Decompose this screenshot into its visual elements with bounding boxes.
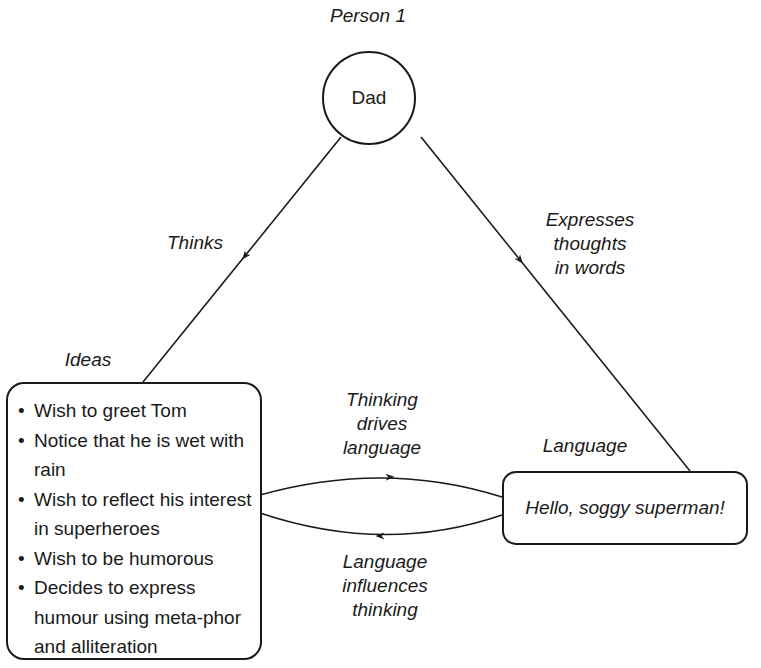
language-title: Language bbox=[530, 434, 640, 458]
ideas-box: Wish to greet Tom Notice that he is wet … bbox=[6, 382, 262, 660]
language-influences-label: Language influences thinking bbox=[320, 550, 450, 622]
person-label: Person 1 bbox=[318, 4, 418, 28]
expresses-edge bbox=[421, 137, 690, 471]
dad-node: Dad bbox=[322, 51, 416, 145]
expresses-line-1: Expresses bbox=[530, 208, 650, 232]
ideas-item: Wish to reflect his interest in superher… bbox=[18, 485, 260, 544]
expresses-line-3: in words bbox=[530, 256, 650, 280]
thinking-drives-line-1: Thinking bbox=[322, 388, 442, 412]
language-influences-line-1: Language bbox=[320, 550, 450, 574]
thinks-label: Thinks bbox=[155, 231, 235, 255]
thinks-edge bbox=[143, 137, 341, 382]
language-influences-line-3: thinking bbox=[320, 598, 450, 622]
ideas-title: Ideas bbox=[58, 348, 118, 372]
ideas-item: Decides to express humour using meta-pho… bbox=[18, 573, 260, 662]
ideas-list: Wish to greet Tom Notice that he is wet … bbox=[8, 384, 260, 662]
thinking-drives-line-3: language bbox=[322, 436, 442, 460]
expresses-line-2: thoughts bbox=[530, 232, 650, 256]
language-influences-line-2: influences bbox=[320, 574, 450, 598]
ideas-item: Wish to greet Tom bbox=[18, 396, 260, 426]
utterance-text: Hello, soggy superman! bbox=[525, 497, 725, 519]
ideas-item: Notice that he is wet with rain bbox=[18, 426, 260, 485]
ideas-item: Wish to be humorous bbox=[18, 544, 260, 574]
dad-node-label: Dad bbox=[352, 87, 387, 109]
expresses-label: Expresses thoughts in words bbox=[530, 208, 650, 280]
language-influences-edge bbox=[260, 513, 502, 535]
thinking-drives-line-2: drives bbox=[322, 412, 442, 436]
thinking-drives-label: Thinking drives language bbox=[322, 388, 442, 460]
thinking-drives-edge bbox=[260, 478, 502, 497]
language-box: Hello, soggy superman! bbox=[502, 471, 748, 545]
